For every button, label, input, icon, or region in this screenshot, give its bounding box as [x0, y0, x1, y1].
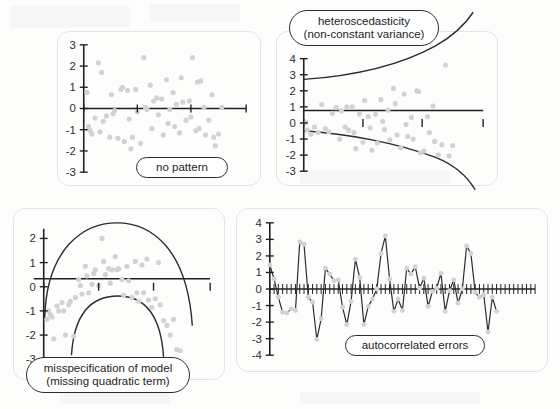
scatter-point [161, 318, 166, 323]
series-marker [374, 287, 379, 292]
scatter-point [402, 91, 407, 96]
y-tick-labels-p3: 210-1-2-3 [26, 232, 210, 365]
scatter-point [312, 124, 317, 129]
scatter-point [333, 105, 338, 110]
scatter-point [391, 86, 396, 91]
scatter-point [68, 299, 73, 304]
scatter-point [201, 105, 206, 110]
scatter-point [44, 317, 49, 322]
series-markers-p4 [267, 234, 499, 342]
scatter-point [385, 108, 390, 113]
scatter-point [368, 125, 373, 130]
series-marker [413, 264, 418, 269]
scatter-point [219, 105, 224, 110]
scatter-point [133, 87, 138, 92]
scatter-point [129, 295, 134, 300]
y-tick-label: -3 [252, 333, 262, 345]
scatter-point [350, 104, 355, 109]
scatter-point [84, 273, 89, 278]
scatter-point [96, 60, 101, 65]
scatter-point [351, 130, 356, 135]
scatter-point [393, 101, 398, 106]
series-marker [379, 251, 384, 256]
scatter-point [83, 264, 88, 269]
scan-artifact [150, 4, 240, 22]
scatter-point [375, 140, 380, 145]
series-marker [426, 304, 431, 309]
scan-artifact [10, 6, 130, 28]
scatter-point [188, 114, 193, 119]
scatter-point [61, 308, 66, 313]
series-marker [272, 277, 277, 282]
series-marker [387, 277, 392, 282]
scatter-point [156, 260, 161, 265]
scatter-point [136, 299, 141, 304]
y-tick-label: 2 [255, 250, 261, 262]
series-marker [477, 295, 482, 300]
scatter-point [171, 317, 176, 322]
scatter-point [357, 112, 362, 117]
scatter-point [316, 130, 321, 135]
scatter-point [97, 129, 102, 134]
scatter-point [149, 305, 154, 310]
series-marker [349, 299, 354, 304]
y-tick-label: -1 [286, 133, 296, 145]
y-tick-label: -4 [252, 349, 262, 361]
scatter-point [124, 264, 129, 269]
scatter-point [378, 97, 383, 102]
series-marker [267, 263, 272, 268]
scatter-point [139, 262, 144, 267]
series-marker [314, 337, 319, 342]
y-tick-label: -2 [66, 145, 76, 157]
scatter-point [166, 121, 171, 126]
scatter-point [346, 128, 351, 133]
scatter-point [145, 107, 150, 112]
scatter-points-p3 [44, 236, 182, 353]
series-marker [468, 251, 473, 256]
label-line: no pattern [156, 161, 208, 175]
scatter-point [190, 55, 195, 60]
series-marker [451, 277, 456, 282]
series-marker [361, 322, 366, 327]
scatter-point [339, 108, 344, 113]
series-marker [396, 296, 401, 301]
scatter-point [436, 153, 441, 158]
y-tick-label: -3 [286, 165, 296, 177]
label-autocorrelated-errors: autocorrelated errors [345, 335, 485, 356]
scatter-point [369, 148, 374, 153]
series-marker [366, 304, 371, 309]
scatter-point [161, 132, 166, 137]
y-tick-label: 4 [255, 217, 261, 229]
scatter-point [179, 75, 184, 80]
scatter-point [405, 134, 410, 139]
scatter-point [156, 112, 161, 117]
scatter-point [99, 70, 104, 75]
series-marker [447, 288, 452, 293]
series-marker [460, 287, 465, 292]
scatter-point [93, 267, 98, 272]
y-tick-label: 0 [29, 281, 35, 293]
series-marker [417, 286, 422, 291]
scatter-point [84, 90, 89, 95]
scatter-point [432, 139, 437, 144]
y-tick-label: 0 [69, 102, 75, 114]
scatter-point [121, 293, 126, 298]
series-marker [293, 308, 298, 313]
series-marker [473, 290, 478, 295]
series-marker [481, 292, 486, 297]
scatter-point [93, 115, 98, 120]
y-tick-label: 4 [289, 53, 295, 65]
series-marker [391, 309, 396, 314]
scatter-point [79, 291, 84, 296]
scatter-point [54, 304, 59, 309]
scatter-point [206, 118, 211, 123]
panel-misspecification: 210-1-2-3 misspecification of model (mis… [13, 208, 225, 380]
scatter-point [216, 131, 221, 136]
scatter-point [56, 308, 61, 313]
series-marker [284, 311, 289, 316]
scatter-point [170, 90, 175, 95]
series-marker [319, 316, 324, 321]
scatter-point [183, 118, 188, 123]
scatter-point [89, 282, 94, 287]
series-marker [370, 296, 375, 301]
